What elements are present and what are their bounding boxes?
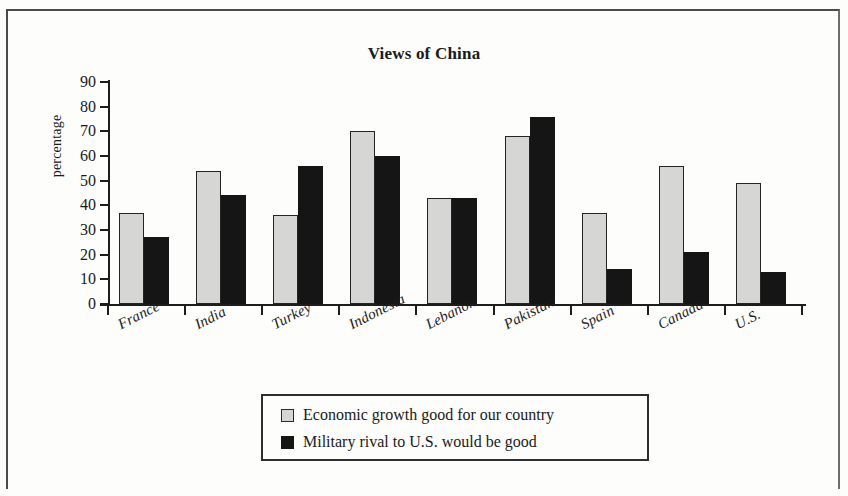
bar-economic-growth <box>427 198 452 304</box>
bar-group <box>339 82 416 304</box>
y-axis-tick-label: 50 <box>58 173 96 189</box>
bar-economic-growth <box>273 215 298 304</box>
y-axis-tick-label: 30 <box>58 222 96 238</box>
bar-military-rival <box>607 269 632 304</box>
legend-item-military-rival: Military rival to U.S. would be good <box>281 429 537 455</box>
bar-economic-growth <box>119 213 144 304</box>
y-axis-tick-label: 20 <box>58 247 96 263</box>
bar-economic-growth <box>736 183 761 304</box>
x-axis-tick <box>184 306 186 315</box>
scanned-page: Views of China percentage 01020304050607… <box>0 0 848 496</box>
bar-economic-growth <box>659 166 684 304</box>
bar-military-rival <box>530 117 555 304</box>
legend-item-economic-growth: Economic growth good for our country <box>281 402 554 428</box>
plot-area <box>108 82 802 304</box>
x-axis-tick <box>415 306 417 315</box>
x-axis-tick <box>261 306 263 315</box>
bar-group <box>571 82 648 304</box>
bar-economic-growth <box>196 171 221 304</box>
bar-group <box>494 82 571 304</box>
y-axis-tick-label: 10 <box>58 271 96 287</box>
x-axis-tick <box>338 306 340 315</box>
y-axis-tick-label: 40 <box>58 197 96 213</box>
legend-swatch-icon-series-0 <box>281 409 294 422</box>
bar-group <box>725 82 802 304</box>
x-axis-tick <box>647 306 649 315</box>
bar-group <box>108 82 185 304</box>
bar-military-rival <box>452 198 477 304</box>
x-axis-tick <box>724 306 726 315</box>
x-axis-tick <box>107 306 109 315</box>
x-axis-tick <box>570 306 572 315</box>
bar-group <box>648 82 725 304</box>
bar-group <box>185 82 262 304</box>
y-axis-tick-label: 60 <box>58 148 96 164</box>
legend-label-series-0: Economic growth good for our country <box>303 407 554 423</box>
bar-military-rival <box>221 195 246 304</box>
y-axis-tick-label: 70 <box>58 123 96 139</box>
legend-label-series-1: Military rival to U.S. would be good <box>303 434 537 450</box>
bar-military-rival <box>375 156 400 304</box>
bar-military-rival <box>298 166 323 304</box>
y-axis-tick-label: 0 <box>58 296 96 312</box>
y-axis-tick-label: 90 <box>58 74 96 90</box>
bar-group <box>262 82 339 304</box>
bar-economic-growth <box>350 131 375 304</box>
x-axis-tick <box>801 306 803 315</box>
x-axis-tick <box>493 306 495 315</box>
bar-economic-growth <box>505 136 530 304</box>
bar-economic-growth <box>582 213 607 304</box>
bar-military-rival <box>761 272 786 304</box>
bar-group <box>416 82 493 304</box>
chart-title: Views of China <box>0 44 848 64</box>
chart-legend: Economic growth good for our country Mil… <box>261 394 649 461</box>
bar-military-rival <box>144 237 169 304</box>
legend-swatch-icon-series-1 <box>281 436 294 449</box>
y-axis-tick-label: 80 <box>58 99 96 115</box>
